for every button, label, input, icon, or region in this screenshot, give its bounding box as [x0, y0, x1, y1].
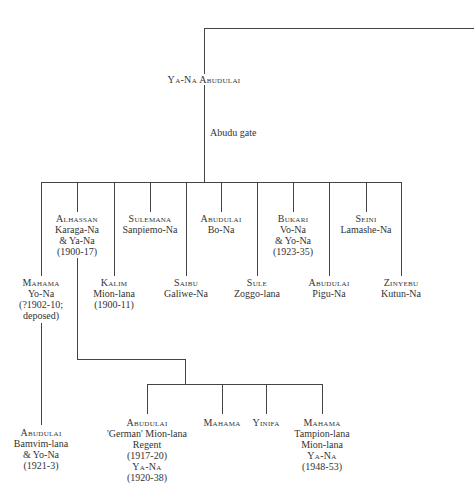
root-node: Ya-Na Abudulai [165, 74, 244, 85]
grandson-node-mahama-tampion: Mahama Tampion-lana Mion-lana Ya-Na (194… [294, 417, 349, 472]
son-node-bukari: Bukari Vo-Na & Yo-Na (1923-35) [273, 213, 313, 257]
son-node-sule: Sule Zoggo-lana [234, 277, 280, 299]
drop-grandson-2 [266, 384, 267, 414]
drop-son-8 [329, 182, 330, 276]
son-node-abudulai-bo: Abudulai Bo-Na [200, 213, 241, 235]
son-node-sulemana: Sulemana Sanpiemo-Na [123, 213, 178, 235]
alhassan-connector-horizontal [77, 359, 186, 360]
son-node-saibu: Saibu Galiwe-Na [164, 277, 208, 299]
drop-son-10 [401, 182, 402, 276]
son-node-mahama: Mahama Yo-Na (?1902-10; deposed) [19, 277, 63, 321]
son-node-abudulai-pigu: Abudulai Pigu-Na [308, 277, 349, 299]
root-name: Ya-Na Abudulai [168, 74, 241, 85]
grandson-node-mahama: Mahama [203, 417, 240, 428]
gate-label: Abudu gate [210, 127, 256, 138]
alhassan-connector-drop [185, 359, 186, 384]
drop-son-1 [77, 182, 78, 212]
drop-grandson-1 [222, 384, 223, 414]
grandson-node-abudulai-german: Abudulai 'German' Mion-lana Regent (1917… [107, 417, 187, 483]
drop-son-2 [114, 182, 115, 276]
drop-son-0 [41, 182, 42, 276]
drop-son-7 [293, 182, 294, 212]
mahama-descendant-line [41, 323, 42, 425]
drop-son-4 [186, 182, 187, 276]
drop-son-9 [366, 182, 367, 212]
son-node-kalim: Kalim Mion-lana (1900-11) [93, 277, 135, 310]
grandson-node-yinifa: Yinifa [252, 417, 279, 428]
grandsons-horizontal-line [147, 384, 323, 385]
root-vertical-line-upper [204, 28, 205, 74]
root-vertical-line-lower [204, 82, 205, 182]
son-node-alhassan: Alhassan Karaga-Na & Ya-Na (1900-17) [55, 213, 99, 257]
alhassan-descendant-line [77, 258, 78, 360]
grandson-node-abudulai-bamvim: Abudulai Bamvim-lana & Yo-Na (1921-3) [14, 427, 68, 471]
drop-son-5 [221, 182, 222, 212]
son-node-zinyebu: Zinyebu Kutun-Na [381, 277, 421, 299]
drop-grandson-0 [147, 384, 148, 414]
drop-son-3 [150, 182, 151, 212]
drop-son-6 [257, 182, 258, 276]
top-horizontal-line [204, 28, 474, 29]
son-node-seini: Seini Lamashe-Na [340, 213, 391, 235]
drop-grandson-3 [322, 384, 323, 414]
